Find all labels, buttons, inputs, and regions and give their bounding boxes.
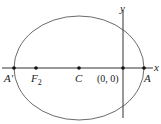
point-a-prime — [12, 66, 16, 70]
label-origin: (0, 0) — [97, 73, 119, 85]
x-axis-label: x — [153, 61, 159, 73]
y-axis-label: y — [119, 2, 125, 14]
label-c: C — [75, 72, 83, 84]
label-a: A — [143, 72, 151, 84]
point-f2 — [34, 66, 38, 70]
ellipse-diagram: x y A′ F2 C (0, 0) A — [0, 0, 161, 124]
point-a — [142, 66, 146, 70]
label-f2-subscript: 2 — [38, 78, 42, 87]
point-c — [77, 66, 81, 70]
label-f2: F2 — [30, 72, 42, 87]
label-a-prime: A′ — [3, 72, 14, 84]
point-origin — [121, 66, 125, 70]
